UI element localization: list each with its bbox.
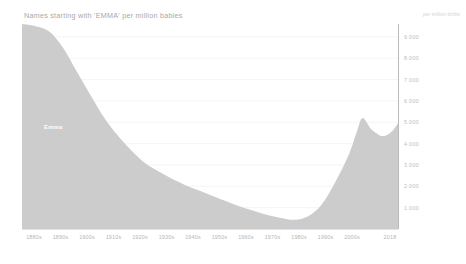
y-axis-tick-label: 7.000: [404, 77, 419, 83]
x-axis-tick-label: 2000s: [344, 234, 360, 240]
unit-note-label: per million births: [423, 12, 460, 17]
x-axis-tick-label: 1940s: [185, 234, 201, 240]
plot-area: [22, 24, 398, 229]
y-axis-tick-label: 9.000: [404, 34, 419, 40]
x-axis-tick-label: 1890s: [53, 234, 69, 240]
x-axis-tick-label: 1880s: [26, 234, 42, 240]
x-axis-line: [22, 229, 398, 230]
x-axis-tick-label: 1910s: [106, 234, 122, 240]
y-axis-line: [398, 24, 399, 229]
x-axis-tick-label: 1990s: [318, 234, 334, 240]
y-axis-tick-label: 2.000: [404, 183, 419, 189]
y-axis-tick-label: 6.000: [404, 98, 419, 104]
x-axis-tick-label: 1980s: [291, 234, 307, 240]
x-axis-tick-label: 1960s: [238, 234, 254, 240]
y-axis-tick-label: 4.000: [404, 141, 419, 147]
x-axis-tick-label: 1900s: [79, 234, 95, 240]
series-area-emma: [22, 24, 398, 229]
y-axis-tick-label: 1.000: [404, 205, 419, 211]
x-axis-tick-label: 1970s: [265, 234, 281, 240]
chart-container: Names starting with 'EMMA' per million b…: [0, 0, 466, 264]
y-axis-tick-label: 5.000: [404, 119, 419, 125]
x-axis-tick-label: 2018: [384, 234, 397, 240]
page-title: Names starting with 'EMMA' per million b…: [24, 11, 183, 20]
x-axis-tick-label: 1950s: [212, 234, 228, 240]
y-axis-tick-label: 3.000: [404, 162, 419, 168]
series-label-emma: Emma: [44, 124, 63, 130]
x-axis-tick-label: 1930s: [159, 234, 175, 240]
y-axis-tick-label: 8.000: [404, 55, 419, 61]
x-axis-tick-label: 1920s: [132, 234, 148, 240]
area-chart-svg: [22, 24, 398, 229]
